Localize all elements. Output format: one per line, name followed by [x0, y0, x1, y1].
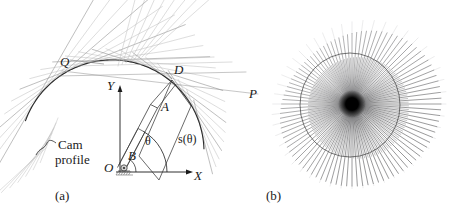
panel-a-artwork [0, 0, 258, 197]
figure-container: Q D P Y X O A B θ s(θ) Cam profile (a) (… [0, 0, 470, 222]
label-point-q: Q [60, 54, 69, 70]
label-cam-profile-line2: profile [55, 152, 90, 168]
label-distance-s-theta: s(θ) [178, 132, 196, 147]
caption-panel-b: (b) [266, 188, 281, 204]
label-arm-a: A [161, 99, 169, 115]
s-theta-frame [139, 80, 191, 180]
label-axis-y: Y [107, 78, 114, 94]
label-point-d: D [174, 62, 183, 78]
label-angle-theta: θ [145, 134, 151, 149]
label-point-o: O [104, 160, 113, 176]
label-cam-profile-line1: Cam [58, 137, 83, 153]
panel-b-artwork [272, 20, 446, 188]
figure-artwork [0, 0, 470, 222]
label-arm-b: B [128, 148, 136, 164]
label-point-p: P [249, 86, 257, 102]
caption-panel-a: (a) [55, 188, 69, 204]
label-axis-x: X [194, 168, 202, 184]
